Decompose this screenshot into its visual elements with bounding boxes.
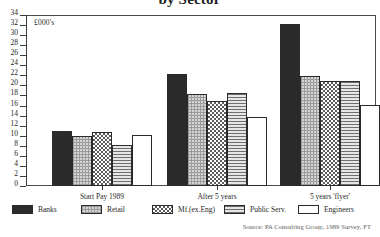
x-axis-tick-mark: [217, 186, 218, 190]
source-note: Source: PA Consulting Group, 1989 Survey…: [0, 223, 371, 230]
y-axis-tick-label: 34: [11, 9, 19, 17]
y-axis-tick-label: 6: [14, 150, 18, 158]
y-axis-tick: 20: [0, 85, 26, 86]
y-axis-tick-mark: [20, 85, 26, 86]
y-axis-tick: 14: [0, 116, 26, 117]
legend-item: Retail: [81, 203, 125, 215]
y-axis-tick-label: 2: [14, 170, 18, 178]
y-axis-tick: 0: [0, 186, 26, 187]
legend-swatch: [152, 205, 173, 214]
y-axis-tick: 4: [0, 166, 26, 167]
y-axis-tick: 12: [0, 126, 26, 127]
y-axis-line: [26, 15, 27, 186]
y-axis-tick: 34: [0, 15, 26, 16]
bar: [132, 135, 152, 186]
y-axis-tick: 8: [0, 146, 26, 147]
y-axis-tick: 16: [0, 106, 26, 107]
y-axis-tick-label: 28: [11, 39, 19, 47]
y-axis-units-label: £000's: [34, 18, 54, 27]
legend-swatch: [224, 205, 245, 214]
y-axis-tick: 32: [0, 25, 26, 26]
y-axis-tick: 18: [0, 95, 26, 96]
y-axis-tick-label: 30: [11, 29, 19, 37]
y-axis-tick-mark: [20, 95, 26, 96]
y-axis-tick-mark: [20, 166, 26, 167]
legend-item: Banks: [12, 203, 57, 215]
y-axis-tick-mark: [20, 25, 26, 26]
bar: [52, 131, 72, 186]
y-axis-tick-label: 16: [11, 100, 19, 108]
x-axis-group-label: Start Pay 1989: [80, 192, 124, 201]
y-axis-tick-label: 14: [11, 110, 19, 118]
bar: [360, 105, 380, 186]
y-axis-tick-label: 4: [14, 160, 18, 168]
legend-item: Engineers: [298, 203, 354, 215]
y-axis-tick-label: 8: [14, 140, 18, 148]
legend-label: Retail: [107, 205, 125, 214]
y-axis-tick-mark: [20, 126, 26, 127]
legend-label: Mf.(ex.Eng): [178, 205, 215, 214]
bar: [207, 101, 227, 187]
legend-swatch: [298, 205, 319, 214]
bar: [187, 94, 207, 186]
y-axis-tick-label: 26: [11, 49, 19, 57]
y-axis-tick-label: 10: [11, 130, 19, 138]
y-axis-tick-mark: [20, 15, 26, 16]
y-axis-tick: 22: [0, 75, 26, 76]
legend: BanksRetailMf.(ex.Eng)Public Serv.Engine…: [12, 203, 372, 217]
x-axis-group-label: 5 years 'flyer': [310, 192, 350, 201]
y-axis-tick: 26: [0, 55, 26, 56]
legend-label: Public Serv.: [250, 205, 286, 214]
y-axis-tick-mark: [20, 75, 26, 76]
y-axis-tick-label: 12: [11, 120, 19, 128]
y-axis-tick-mark: [20, 65, 26, 66]
y-axis-tick-label: 32: [11, 19, 19, 27]
legend-label: Banks: [38, 205, 57, 214]
x-axis-group-label: After 5 years: [197, 192, 236, 201]
legend-swatch: [81, 205, 102, 214]
bar: [112, 145, 132, 186]
x-axis-tick-mark: [330, 186, 331, 190]
legend-swatch: [12, 205, 33, 214]
y-axis-tick-mark: [20, 146, 26, 147]
y-axis-tick-label: 18: [11, 89, 19, 97]
y-axis-tick-label: 20: [11, 79, 19, 87]
bar: [320, 81, 340, 186]
y-axis-tick-label: 0: [14, 180, 18, 188]
y-axis-tick: 24: [0, 65, 26, 66]
bar: [300, 76, 320, 186]
y-axis-tick-mark: [20, 116, 26, 117]
y-axis-tick: 28: [0, 45, 26, 46]
y-axis-tick-mark: [20, 45, 26, 46]
bar: [340, 81, 360, 186]
legend-item: Public Serv.: [224, 203, 286, 215]
bar: [227, 93, 247, 186]
y-axis-tick-mark: [20, 35, 26, 36]
bar: [167, 74, 187, 186]
x-axis-tick-mark: [102, 186, 103, 190]
y-axis-tick-mark: [20, 156, 26, 157]
bar: [280, 24, 300, 186]
bar: [92, 132, 112, 186]
legend-item: Mf.(ex.Eng): [152, 203, 215, 215]
y-axis-tick-mark: [20, 55, 26, 56]
legend-label: Engineers: [324, 205, 354, 214]
y-axis-tick: 6: [0, 156, 26, 157]
y-axis-tick: 10: [0, 136, 26, 137]
chart-title: by Sector: [0, 0, 379, 8]
y-axis-tick: 2: [0, 176, 26, 177]
y-axis-tick-mark: [20, 136, 26, 137]
bar: [247, 117, 267, 186]
y-axis-tick-mark: [20, 106, 26, 107]
y-axis-tick-mark: [20, 176, 26, 177]
y-axis-tick-label: 24: [11, 59, 19, 67]
y-axis-tick: 30: [0, 35, 26, 36]
y-axis-tick-mark: [20, 186, 26, 187]
bar: [72, 136, 92, 186]
y-axis-tick-label: 22: [11, 69, 19, 77]
